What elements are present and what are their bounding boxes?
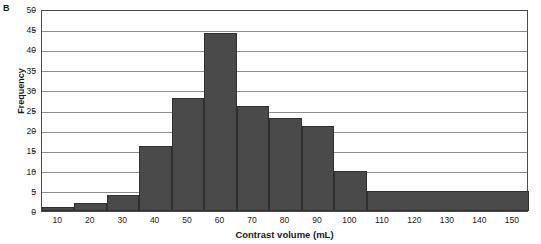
x-tick-label: 150	[505, 215, 519, 225]
x-tick-label: 40	[150, 215, 159, 225]
y-tick-mark	[32, 10, 36, 11]
histogram-bar	[74, 203, 106, 211]
x-tick-label: 20	[85, 215, 94, 225]
plot-area	[41, 10, 528, 212]
x-tick-label: 30	[117, 215, 126, 225]
histogram-bar	[139, 146, 171, 211]
y-tick-mark	[32, 111, 36, 112]
histogram-bar	[302, 126, 334, 211]
histogram-bar	[42, 207, 74, 211]
gridline	[42, 51, 527, 52]
histogram-bar	[107, 195, 139, 211]
y-tick-mark	[32, 212, 36, 213]
y-tick-mark	[32, 30, 36, 31]
x-tick-label: 110	[375, 215, 389, 225]
x-tick-label: 80	[280, 215, 289, 225]
x-tick-label: 100	[342, 215, 356, 225]
x-tick-label: 10	[52, 215, 61, 225]
histogram-bar	[269, 118, 301, 211]
x-axis-title: Contrast volume (mL)	[41, 229, 528, 240]
histogram-bar	[172, 98, 204, 211]
histogram-bar	[367, 191, 529, 211]
x-tick-label: 130	[440, 215, 454, 225]
x-tick-label: 60	[215, 215, 224, 225]
x-tick-label: 140	[472, 215, 486, 225]
histogram-figure: B Frequency 05101520253035404550 1020304…	[0, 0, 541, 244]
histogram-bar	[334, 171, 366, 211]
gridline	[42, 71, 527, 72]
y-axis-tick-labels: 05101520253035404550	[0, 10, 36, 212]
x-tick-label: 120	[407, 215, 421, 225]
y-tick-mark	[32, 191, 36, 192]
y-tick-mark	[32, 90, 36, 91]
histogram-bar	[204, 33, 236, 211]
histogram-bar	[237, 106, 269, 211]
gridline	[42, 31, 527, 32]
gridline	[42, 91, 527, 92]
y-tick-mark	[32, 70, 36, 71]
y-tick-mark	[32, 50, 36, 51]
y-tick-mark	[32, 151, 36, 152]
y-tick-mark	[32, 171, 36, 172]
gridline	[42, 112, 527, 113]
x-tick-label: 50	[182, 215, 191, 225]
y-tick-mark	[32, 131, 36, 132]
x-tick-label: 70	[247, 215, 256, 225]
x-tick-label: 90	[312, 215, 321, 225]
